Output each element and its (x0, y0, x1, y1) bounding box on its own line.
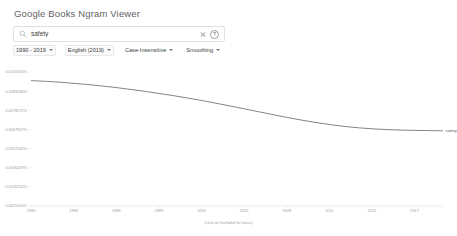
x-tick-label: 2014 (368, 208, 377, 213)
search-input[interactable]: safety (31, 31, 199, 38)
smoothing-dropdown[interactable]: Smoothing (184, 46, 222, 55)
y-tick-label: 0.0057143% (5, 146, 27, 151)
chart-canvas[interactable]: 0.0100000%0.0089286%0.0078571%0.0067857%… (0, 58, 457, 236)
x-tick-label: 1993 (69, 208, 78, 213)
smoothing-label: Smoothing (186, 48, 213, 54)
x-axis-ticks: 1990199319961999200220052008201120142017 (27, 206, 419, 213)
y-tick-label: 0.0035714% (5, 184, 27, 189)
x-tick-label: 1990 (27, 208, 36, 213)
y-tick-label: 0.0089286% (5, 89, 27, 94)
ngram-chart[interactable]: 0.0100000%0.0089286%0.0078571%0.0067857%… (0, 58, 457, 236)
search-bar[interactable]: safety ? (13, 26, 225, 42)
page-title: Google Books Ngram Viewer (14, 8, 140, 19)
search-icon (19, 30, 27, 38)
case-sensitivity-dropdown[interactable]: Case-Insensitive (123, 46, 175, 55)
y-tick-label: 0.0067857% (5, 127, 27, 132)
x-tick-label: 1996 (112, 208, 121, 213)
close-icon[interactable] (199, 30, 207, 38)
corpus-label: English (2019) (68, 48, 104, 54)
y-tick-label: 0.0046429% (5, 165, 27, 170)
year-range-dropdown[interactable]: 1990 - 2019 (13, 45, 56, 56)
filter-row: 1990 - 2019 English (2019) Case-Insensit… (13, 45, 222, 56)
x-tick-label: 2005 (240, 208, 249, 213)
x-tick-label: 1999 (155, 208, 164, 213)
case-sensitivity-label: Case-Insensitive (125, 48, 166, 54)
corpus-dropdown[interactable]: English (2019) (65, 45, 114, 56)
chart-caption: (click on line/label for focus) (0, 220, 457, 225)
chevron-down-icon (169, 49, 173, 51)
series-line-safety[interactable] (31, 81, 443, 131)
y-tick-label: 0.0078571% (5, 108, 27, 113)
ngram-viewer-app: Google Books Ngram Viewer safety ? 1990 … (0, 0, 457, 236)
y-axis-ticks: 0.0100000%0.0089286%0.0078571%0.0067857%… (5, 69, 31, 208)
series-label-safety[interactable]: safety (446, 128, 457, 133)
y-tick-label: 0.0100000% (5, 69, 27, 74)
chevron-down-icon (216, 49, 220, 51)
y-tick-label: 0.0025000% (5, 203, 27, 208)
x-tick-label: 2017 (410, 208, 419, 213)
help-circle-icon[interactable]: ? (210, 30, 219, 39)
x-tick-label: 2002 (197, 208, 206, 213)
year-range-label: 1990 - 2019 (16, 48, 46, 54)
chevron-down-icon (49, 49, 53, 51)
x-tick-label: 2008 (282, 208, 291, 213)
chevron-down-icon (107, 49, 111, 51)
x-tick-label: 2011 (325, 208, 333, 213)
